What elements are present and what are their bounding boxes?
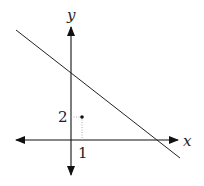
y-tick-label: 2 bbox=[58, 108, 68, 126]
x-tick-label: 1 bbox=[78, 144, 88, 162]
x-axis-label: x bbox=[183, 132, 192, 150]
sloped-line bbox=[16, 30, 180, 158]
y-axis-label: y bbox=[66, 6, 76, 24]
coordinate-diagram: y x 2 1 bbox=[0, 0, 204, 186]
point bbox=[80, 115, 84, 119]
